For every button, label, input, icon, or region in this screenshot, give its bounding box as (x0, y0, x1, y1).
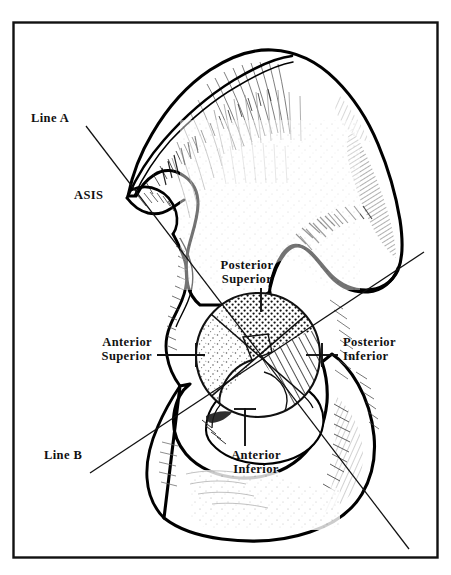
label-anterior-inferior: Anterior Inferior (220, 449, 292, 476)
label-line-b: Line B (44, 449, 82, 462)
figure-root: Line A ASIS Posterior Superior Anterior … (0, 0, 451, 575)
label-line-a: Line A (31, 112, 69, 125)
label-posterior-superior: Posterior Superior (208, 259, 286, 286)
label-anterior-superior: Anterior Superior (74, 336, 152, 363)
label-posterior-inferior: Posterior Inferior (343, 336, 425, 363)
label-asis: ASIS (74, 189, 103, 202)
anatomical-illustration (0, 0, 451, 575)
